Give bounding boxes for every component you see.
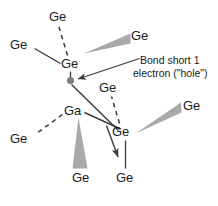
wedge-bond-ga-to-bottom-left — [73, 118, 88, 169]
semiconductor-doping-diagram: Ge Ge Ge Ge Ge Ga Ge Ge Ge Ge Ge Bond sh… — [0, 0, 218, 206]
atom-label-ga-dopant: Ga — [64, 104, 81, 117]
dashed-bond-center-to-top — [59, 26, 68, 56]
atom-label-ge-center: Ge — [61, 57, 78, 70]
dashed-bond-ga-to-left-lower — [37, 115, 63, 134]
atom-label-ge-upper-left: Ge — [10, 38, 27, 51]
wedge-bond-lowerright-to-farright — [136, 103, 182, 134]
wedge-bond-center-to-upper-right — [84, 34, 131, 54]
atom-label-ge-lower-right: Ge — [112, 125, 129, 138]
annotation-line-1: Bond short 1 — [140, 54, 200, 67]
atom-label-ge-mid-right: Ge — [99, 81, 116, 94]
dashed-bond-lowerright-to-midright — [112, 97, 120, 124]
atom-label-ge-left-lower: Ge — [10, 132, 27, 145]
solid-bond-upperleft-to-center — [35, 49, 61, 64]
atom-label-ge-far-right: Ge — [183, 99, 200, 112]
atom-label-ge-bottom-left: Ge — [72, 171, 89, 184]
hole-marker-icon — [67, 77, 74, 84]
atom-label-ge-upper-right: Ge — [131, 29, 148, 42]
annotation-leader-arrow — [78, 59, 140, 80]
annotation-line-2: electron ("hole") — [133, 67, 208, 80]
atom-label-ge-top: Ge — [49, 10, 66, 23]
atom-label-ge-bottom-right: Ge — [116, 171, 133, 184]
